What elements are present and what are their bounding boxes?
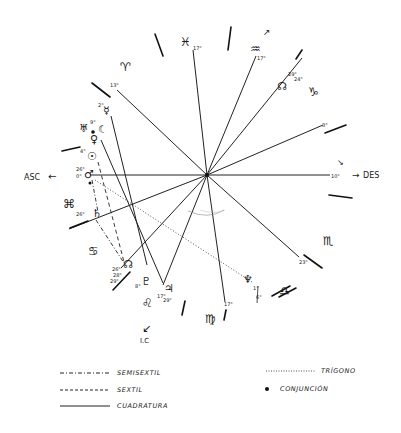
- arrow-up-icon: ↗: [263, 27, 271, 37]
- asc-arrow: ←: [48, 171, 56, 182]
- aspect-lines: [92, 162, 252, 282]
- degree-label: 17°: [224, 301, 233, 307]
- scorpio-icon: ♏: [323, 234, 334, 248]
- des-label: DES: [363, 171, 379, 180]
- degree-label: 3°: [322, 122, 328, 128]
- neptune-icon: ♆: [243, 273, 253, 286]
- legend-label: TRÍGONO: [321, 366, 356, 375]
- venus-icon: ♀: [90, 133, 98, 146]
- degree-label: 8°: [135, 283, 141, 289]
- north-node-icon: ☊: [123, 258, 133, 271]
- pluto-icon: ♇: [141, 275, 151, 288]
- degree-label: 9°: [90, 119, 96, 125]
- planets: ☿ ♅ ☾ ♀ ☉ ♂ ♄ ☊ ♇ ♃ ♆ ☊: [79, 80, 287, 295]
- mars-icon: ♂: [84, 168, 94, 181]
- north-node-2-icon: ☊: [277, 80, 287, 93]
- degree-label: 26°: [76, 166, 85, 172]
- degree-label: 29°: [110, 278, 119, 284]
- legend-label: SEMISEXTIL: [117, 369, 161, 377]
- ic-arrow: ↙: [142, 322, 151, 335]
- angle-labels: ASC ← → DES ↙ I.C ↘ ↗: [24, 27, 379, 345]
- degree-label: 4°: [80, 148, 86, 154]
- asc-label: ASC: [24, 173, 41, 182]
- degree-label: 23°: [299, 259, 308, 265]
- degree-label: 1°: [253, 285, 259, 291]
- pisces-icon: ♓: [180, 35, 191, 49]
- moon-icon: ☾: [98, 123, 108, 136]
- degree-label: 6°: [256, 294, 262, 300]
- gemini-icon: ⌘: [63, 197, 75, 211]
- degree-label: 26°: [76, 211, 85, 217]
- degree-label: 2°: [98, 102, 104, 108]
- libra-icon: ♎: [279, 284, 290, 298]
- degree-label: 17°: [257, 55, 266, 61]
- legend-item-trigono: TRÍGONO: [266, 366, 356, 375]
- degree-label: 17°: [193, 45, 202, 51]
- des-arrow: →: [352, 170, 360, 180]
- legend-item-sextil: SEXTIL: [60, 386, 143, 394]
- degree-label: 13°: [110, 82, 119, 88]
- capricorn-icon: ♑: [308, 85, 319, 99]
- legend-label: SEXTIL: [117, 386, 143, 394]
- degree-label: 24°: [294, 76, 303, 82]
- virgo-icon: ♍: [205, 312, 216, 326]
- degree-label: 0°: [76, 173, 82, 179]
- legend-item-conjuncion: CONJUNCIÓN: [265, 384, 329, 393]
- aries-icon: ♈: [120, 60, 131, 74]
- house-cusp-lines: [69, 50, 330, 303]
- sun-icon: ☉: [87, 150, 97, 163]
- chart-center: [205, 173, 209, 177]
- leo-icon: ♌: [142, 296, 153, 310]
- legend-label: CONJUNCIÓN: [280, 384, 329, 393]
- legend-item-cuadratura: CUADRATURA: [60, 402, 168, 410]
- legend: SEMISEXTIL SEXTIL CUADRATURA TRÍGONO CON…: [60, 366, 356, 410]
- cancer-icon: ♋: [88, 244, 99, 258]
- arrow-down-icon: ↘: [337, 158, 344, 167]
- legend-item-semisextil: SEMISEXTIL: [60, 369, 161, 377]
- mercury-icon: ☿: [103, 104, 110, 117]
- saturn-icon: ♄: [92, 207, 102, 220]
- uranus-icon: ♅: [79, 122, 89, 135]
- ic-label: I.C: [140, 337, 149, 345]
- degree-label: 10°: [331, 173, 340, 179]
- aquarius-icon: ♒: [250, 42, 261, 56]
- natal-chart: ASC ← → DES ↙ I.C ↘ ↗ ♈ ♓ ♒ ♑ ♏ ♎ ♍ ♌ ♋ …: [0, 0, 401, 433]
- legend-label: CUADRATURA: [117, 402, 168, 410]
- degree-label: 29°: [163, 297, 172, 303]
